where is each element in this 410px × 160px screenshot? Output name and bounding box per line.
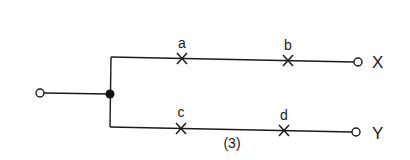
output-terminal-y [352,128,360,136]
output-label-x: X [372,53,383,72]
output-label-y: Y [372,124,383,143]
top-branch-wire [111,57,354,62]
input-wire [44,93,110,94]
label-c: c [178,104,185,120]
input-terminal [36,89,44,97]
bottom-branch-wire [110,127,352,132]
label-a: a [178,35,186,51]
junction-dot [106,90,115,99]
label-d: d [280,107,288,123]
figure-number: (3) [223,135,240,151]
circuit-diagram: a b c d X Y (3) [0,0,410,160]
output-terminal-x [354,58,362,66]
label-b: b [284,37,292,53]
